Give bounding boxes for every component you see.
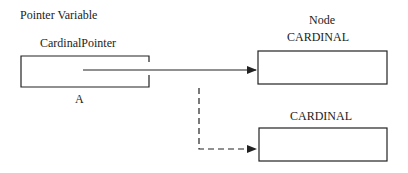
- diagram-canvas: [0, 0, 408, 173]
- node2-box: [259, 128, 387, 161]
- node1-box: [258, 51, 387, 84]
- dashed-pointer-arrow: [199, 88, 256, 149]
- pointer-box: [21, 56, 149, 87]
